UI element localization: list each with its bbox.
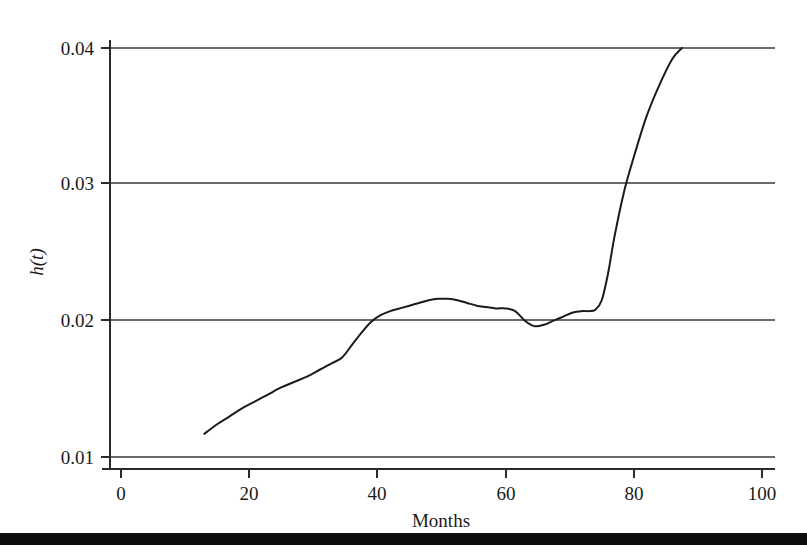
x-tick-label-100: 100 <box>748 483 777 504</box>
y-tick-label-0.02: 0.02 <box>61 310 94 331</box>
x-tick-label-40: 40 <box>368 483 387 504</box>
footer-rule <box>0 533 807 545</box>
x-tick-label-20: 20 <box>240 483 259 504</box>
y-tick-label-0.03: 0.03 <box>61 173 94 194</box>
x-tick-label-0: 0 <box>116 483 126 504</box>
x-tick-label-80: 80 <box>625 483 644 504</box>
x-tick-label-60: 60 <box>497 483 516 504</box>
y-tick-label-0.04: 0.04 <box>61 38 95 59</box>
hazard-function-chart: 0.04 0.03 0.02 0.01 0 20 40 60 80 100 Mo… <box>0 0 807 556</box>
y-tick-label-0.01: 0.01 <box>61 447 94 468</box>
y-axis-title: h(t) <box>26 248 48 275</box>
x-axis-title: Months <box>412 510 470 531</box>
